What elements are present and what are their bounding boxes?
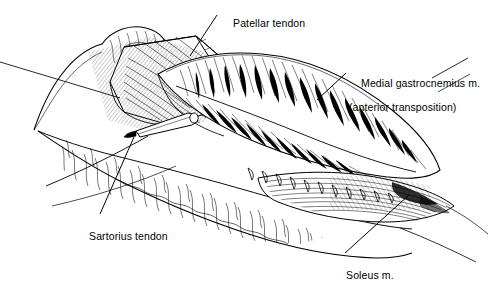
label-medial-gastrocnemius-text: Medial gastrocnemius m. <box>361 77 480 89</box>
label-patellar-tendon-text: Patellar tendon <box>233 17 305 29</box>
label-sartorius-tendon: Sartorius tendon <box>77 218 168 254</box>
label-patellar-tendon: Patellar tendon <box>221 5 305 41</box>
label-sartorius-tendon-text: Sartorius tendon <box>89 230 168 242</box>
label-soleus-text: Soleus m. <box>346 269 394 281</box>
label-medial-gastrocnemius-subtext: (anterior transposition) <box>349 101 480 113</box>
label-soleus: Soleus m. <box>334 257 394 283</box>
label-medial-gastrocnemius: Medial gastrocnemius m. (anterior transp… <box>349 65 480 137</box>
